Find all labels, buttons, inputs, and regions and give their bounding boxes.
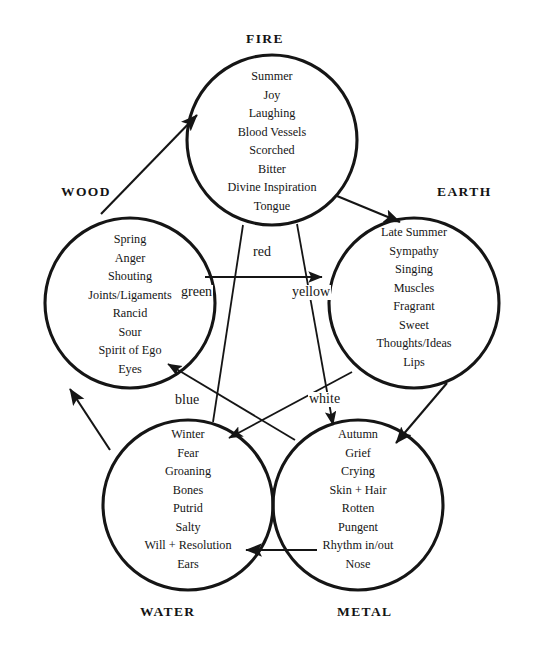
attribute-item: Rancid <box>40 304 220 323</box>
attribute-item: Will + Resolution <box>98 536 278 555</box>
attribute-item: Anger <box>40 249 220 268</box>
attribute-item: Divine Inspiration <box>182 178 362 197</box>
attribute-item: Skin + Hair <box>268 481 448 500</box>
attribute-item: Sour <box>40 323 220 342</box>
attribute-item: Putrid <box>98 499 278 518</box>
attribute-item: Joints/Ligaments <box>40 286 220 305</box>
attribute-item: Laughing <box>182 104 362 123</box>
attribute-item: Ears <box>98 555 278 574</box>
attribute-item: Spirit of Ego <box>40 341 220 360</box>
attribute-item: Singing <box>324 260 504 279</box>
color-label-blue: blue <box>174 393 200 408</box>
attribute-item: Bones <box>98 481 278 500</box>
attribute-item: Winter <box>98 425 278 444</box>
attribute-item: Lips <box>324 353 504 372</box>
attribute-item: Spring <box>40 230 220 249</box>
color-label-red: red <box>252 245 272 260</box>
attribute-item: Pungent <box>268 518 448 537</box>
element-label-metal: METAL <box>337 604 393 620</box>
attribute-item: Eyes <box>40 360 220 379</box>
element-label-fire: FIRE <box>246 31 284 47</box>
attribute-item: Salty <box>98 518 278 537</box>
attribute-item: Rhythm in/out <box>268 536 448 555</box>
attributes-wood: Spring Anger Shouting Joints/Ligaments R… <box>40 230 220 378</box>
attributes-earth: Late Summer Sympathy Singing Muscles Fra… <box>324 223 504 371</box>
attribute-item: Scorched <box>182 141 362 160</box>
attributes-water: Winter Fear Groaning Bones Putrid Salty … <box>98 425 278 573</box>
attribute-item: Fear <box>98 444 278 463</box>
attributes-metal: Autumn Grief Crying Skin + Hair Rotten P… <box>268 425 448 573</box>
attribute-item: Joy <box>182 86 362 105</box>
element-label-earth: EARTH <box>437 184 492 200</box>
attributes-fire: Summer Joy Laughing Blood Vessels Scorch… <box>182 67 362 215</box>
attribute-item: Grief <box>268 444 448 463</box>
attribute-item: Crying <box>268 462 448 481</box>
attribute-item: Shouting <box>40 267 220 286</box>
attribute-item: Thoughts/Ideas <box>324 334 504 353</box>
attribute-item: Autumn <box>268 425 448 444</box>
element-label-wood: WOOD <box>61 184 111 200</box>
attribute-item: Fragrant <box>324 297 504 316</box>
attribute-item: Blood Vessels <box>182 123 362 142</box>
attribute-item: Late Summer <box>324 223 504 242</box>
element-label-water: WATER <box>140 604 196 620</box>
color-label-white: white <box>308 392 341 407</box>
attribute-item: Nose <box>268 555 448 574</box>
attribute-item: Muscles <box>324 279 504 298</box>
five-elements-diagram: FIRE WOOD EARTH WATER METAL red green ye… <box>0 0 543 648</box>
attribute-item: Sympathy <box>324 242 504 261</box>
attribute-item: Tongue <box>182 197 362 216</box>
attribute-item: Sweet <box>324 316 504 335</box>
attribute-item: Bitter <box>182 160 362 179</box>
attribute-item: Rotten <box>268 499 448 518</box>
attribute-item: Groaning <box>98 462 278 481</box>
attribute-item: Summer <box>182 67 362 86</box>
